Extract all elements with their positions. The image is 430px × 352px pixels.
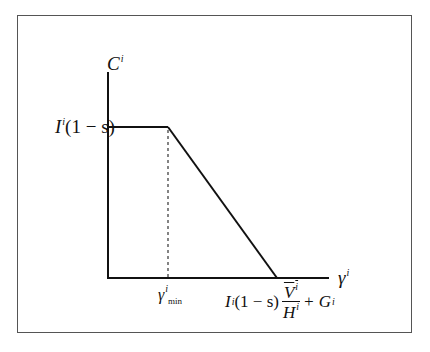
x-axis-label: γi (338, 268, 349, 287)
x-tick-gamma-min: γimin (158, 284, 182, 306)
declining-segment (168, 127, 277, 278)
x-tick-end-label: Ii (1 − s) Vi Hi + Gi (225, 282, 335, 321)
y-tick-label: Ii(1 − s) (55, 117, 115, 136)
fraction: Vi Hi (281, 282, 301, 321)
y-axis-label: Ci (107, 54, 123, 73)
diagram-canvas (0, 0, 430, 352)
